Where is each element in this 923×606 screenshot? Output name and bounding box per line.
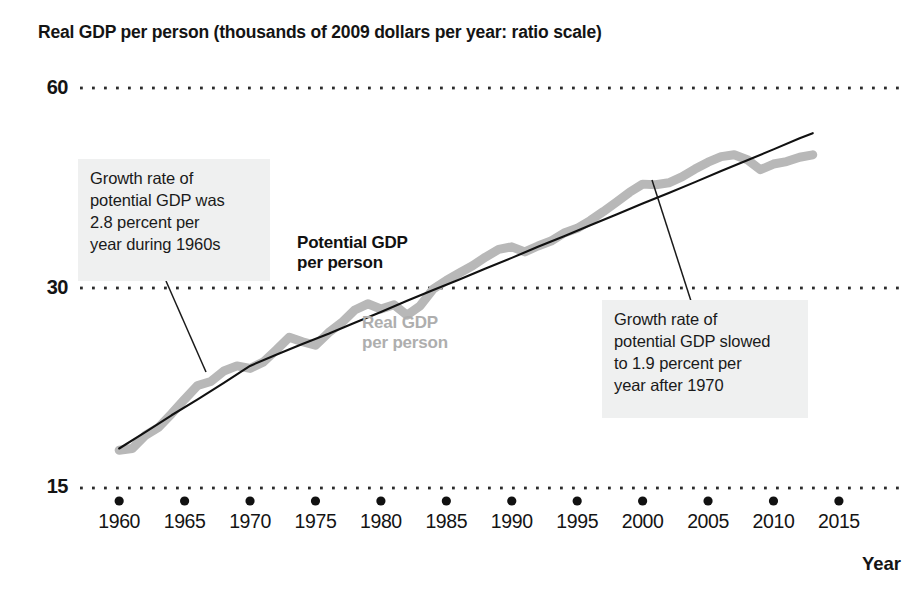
x-axis-tick-1980: 1980 <box>344 510 418 533</box>
y-axis-tick-30: 30 <box>26 276 68 299</box>
left-annotation-line2: potential GDP was <box>90 190 259 212</box>
real-gdp-label-line1: Real GDP <box>362 313 448 333</box>
real-gdp-label-line2: per person <box>362 333 448 353</box>
left-annotation-line1: Growth rate of <box>90 168 259 190</box>
right-annotation-box: Growth rate of potential GDP slowed to 1… <box>602 300 808 418</box>
x-axis-tick-2015: 2015 <box>802 510 876 533</box>
potential-gdp-label-line2: per person <box>297 253 408 273</box>
y-axis-tick-60: 60 <box>26 76 68 99</box>
x-axis-tick-1985: 1985 <box>409 510 483 533</box>
right-annotation-line3: to 1.9 percent per <box>614 353 797 375</box>
potential-gdp-series-label: Potential GDP per person <box>297 233 408 273</box>
real-gdp-series-label: Real GDP per person <box>362 313 448 353</box>
x-axis-tick-1960: 1960 <box>82 510 156 533</box>
right-annotation-leader-line <box>652 180 691 301</box>
potential-gdp-label-line1: Potential GDP <box>297 233 408 253</box>
x-axis-tick-1975: 1975 <box>278 510 352 533</box>
y-axis-tick-15: 15 <box>26 475 68 498</box>
x-axis-tick-2010: 2010 <box>736 510 810 533</box>
x-axis-tick-dots <box>115 496 844 505</box>
x-axis-tick-1990: 1990 <box>475 510 549 533</box>
left-annotation-leader-line <box>166 281 206 372</box>
right-annotation-line4: year after 1970 <box>614 375 797 397</box>
x-axis-tick-2000: 2000 <box>606 510 680 533</box>
chart-figure: Real GDP per person (thousands of 2009 d… <box>0 0 923 606</box>
x-axis-tick-1995: 1995 <box>540 510 614 533</box>
x-axis-tick-1970: 1970 <box>213 510 287 533</box>
left-annotation-line3: 2.8 percent per <box>90 212 259 234</box>
right-annotation-line1: Growth rate of <box>614 309 797 331</box>
x-axis-tick-2005: 2005 <box>671 510 745 533</box>
left-annotation-box: Growth rate of potential GDP was 2.8 per… <box>78 159 270 281</box>
gridlines <box>80 87 899 490</box>
x-axis-tick-1965: 1965 <box>148 510 222 533</box>
left-annotation-line4: year during 1960s <box>90 234 259 256</box>
right-annotation-line2: potential GDP slowed <box>614 331 797 353</box>
x-axis-title: Year <box>862 553 901 575</box>
